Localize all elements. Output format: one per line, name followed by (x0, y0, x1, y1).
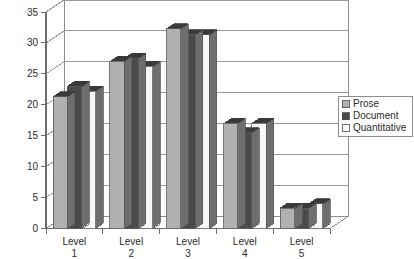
bar-side-face (195, 30, 203, 229)
x-tick-label: 4 (242, 248, 248, 259)
x-tick-label: Level (233, 236, 257, 247)
bar-chart: 05101520253035Level1Level2Level3Level4Le… (0, 0, 414, 259)
bar-side-face (181, 24, 189, 229)
bar-side-face (252, 128, 260, 229)
bar-group (224, 118, 274, 228)
x-tick-label: Level (119, 236, 143, 247)
bar-side-face (153, 61, 161, 228)
y-tick-label: 25 (27, 68, 39, 79)
bar-side-face (124, 56, 132, 228)
bar-front-face (53, 97, 67, 229)
y-tick-label: 20 (27, 99, 39, 110)
x-tick-label: Level (62, 236, 86, 247)
y-tick-label: 35 (27, 7, 39, 18)
y-tick-label: 0 (32, 223, 38, 234)
legend-swatch (342, 125, 349, 132)
y-tick-label: 15 (27, 130, 39, 141)
bar-side-face (96, 86, 104, 228)
x-tick-label: 5 (299, 248, 305, 259)
bar (224, 118, 246, 228)
legend-label: Document (353, 110, 399, 121)
bar-group (110, 53, 160, 228)
legend-label: Quantitative (353, 122, 407, 133)
y-tick-label: 5 (32, 192, 38, 203)
x-tick-label: Level (290, 236, 314, 247)
bar-side-face (138, 53, 146, 228)
bar (280, 203, 302, 228)
x-tick-label: 3 (185, 248, 191, 259)
chart-legend: ProseDocumentQuantitative (338, 96, 412, 136)
chart-canvas: 05101520253035Level1Level2Level3Level4Le… (0, 0, 414, 259)
bar-group (280, 199, 330, 229)
bar (110, 56, 132, 228)
legend-swatch (342, 113, 349, 120)
y-tick-label: 30 (27, 37, 39, 48)
x-tick-label: 1 (72, 248, 78, 259)
bar-group (167, 24, 217, 229)
y-tick-label: 10 (27, 161, 39, 172)
x-tick-label: Level (176, 236, 200, 247)
bar (167, 24, 189, 229)
bar-side-face (266, 118, 274, 228)
bar-front-face (167, 29, 181, 229)
bar-front-face (280, 208, 294, 228)
bar-front-face (110, 61, 124, 228)
bar-side-face (67, 92, 75, 229)
bar-side-face (238, 118, 246, 228)
bar-side-face (209, 30, 217, 229)
legend-swatch (342, 101, 349, 108)
legend-label: Prose (353, 98, 380, 109)
bar-front-face (224, 123, 238, 228)
plot-back-wall: 05101520253035Level1Level2Level3Level4Le… (27, 0, 412, 259)
bar-side-face (82, 81, 90, 228)
x-tick-label: 2 (128, 248, 134, 259)
